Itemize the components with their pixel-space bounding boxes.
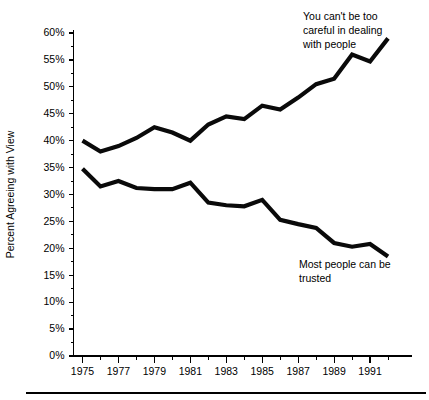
y-tick-label: 55% xyxy=(43,53,64,65)
x-tick-label: 1975 xyxy=(71,365,95,377)
y-tick-label: 60% xyxy=(43,26,64,38)
y-axis: 0%5%10%15%20%25%30%35%40%45%50%55%60% xyxy=(43,26,73,361)
y-tick-label: 30% xyxy=(43,188,64,200)
annotation-line: careful in dealing xyxy=(303,24,383,36)
x-tick-label: 1987 xyxy=(286,365,310,377)
series-line-careful xyxy=(82,38,388,151)
y-tick-label: 15% xyxy=(43,269,64,281)
y-tick-label: 50% xyxy=(43,80,64,92)
annotation-line: Most people can be xyxy=(299,258,391,270)
y-axis-title-text: Percent Agreeing with View xyxy=(4,130,16,258)
x-tick-label: 1977 xyxy=(107,365,131,377)
y-axis-title: Percent Agreeing with View xyxy=(4,130,16,258)
series-lines xyxy=(82,38,388,256)
annotation-line: trusted xyxy=(299,272,331,284)
y-tick-label: 40% xyxy=(43,134,64,146)
y-tick-label: 25% xyxy=(43,215,64,227)
y-tick-label: 10% xyxy=(43,295,64,307)
y-tick-label: 35% xyxy=(43,161,64,173)
x-tick-label: 1979 xyxy=(143,365,167,377)
line-chart: 0%5%10%15%20%25%30%35%40%45%50%55%60% 19… xyxy=(0,0,429,400)
y-tick-label: 20% xyxy=(43,242,64,254)
series-line-trusted xyxy=(82,169,388,257)
x-tick-label: 1981 xyxy=(179,365,203,377)
chart-container: 0%5%10%15%20%25%30%35%40%45%50%55%60% 19… xyxy=(0,0,429,400)
x-axis: 197519771979198119831985198719891991 xyxy=(71,356,412,377)
trusted-annotation: Most people can betrusted xyxy=(299,258,391,284)
y-tick-label: 45% xyxy=(43,107,64,119)
y-tick-label: 0% xyxy=(49,349,64,361)
annotation-line: with people xyxy=(302,38,356,50)
careful-annotation: You can't be toocareful in dealingwith p… xyxy=(302,10,383,50)
annotation-line: You can't be too xyxy=(303,10,378,22)
footer-divider xyxy=(26,392,426,394)
x-tick-label: 1983 xyxy=(215,365,239,377)
y-tick-label: 5% xyxy=(49,322,64,334)
x-tick-label: 1985 xyxy=(251,365,275,377)
x-tick-label: 1989 xyxy=(322,365,346,377)
x-tick-label: 1991 xyxy=(358,365,382,377)
